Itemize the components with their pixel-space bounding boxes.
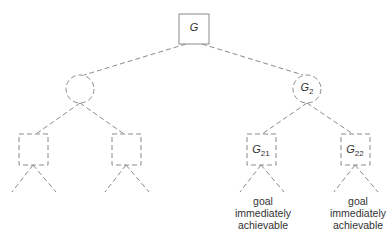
edge-left-box1 bbox=[36, 103, 80, 134]
or-node-left bbox=[66, 75, 94, 103]
edge-g2-g22 bbox=[307, 103, 353, 134]
edge-root-left bbox=[84, 44, 186, 75]
g2-label: G2 bbox=[287, 81, 327, 96]
note-g21: goal immediately achievable bbox=[223, 195, 303, 231]
root-label: G bbox=[174, 21, 214, 33]
edge-leaf bbox=[355, 165, 378, 192]
edge-leaf bbox=[12, 165, 33, 192]
edge-leaf bbox=[33, 165, 56, 192]
edge-g2-g21 bbox=[262, 103, 307, 134]
edge-leaf bbox=[105, 165, 126, 192]
and-node-left-1 bbox=[19, 134, 48, 165]
edge-root-g2 bbox=[202, 44, 303, 75]
and-node-left-2 bbox=[112, 134, 141, 165]
edge-leaf bbox=[126, 165, 149, 192]
g21-label: G21 bbox=[241, 143, 281, 158]
edge-leaf bbox=[334, 165, 355, 192]
edge-left-box2 bbox=[80, 103, 124, 134]
edge-leaf bbox=[261, 165, 284, 192]
note-g22: goal immediately achievable bbox=[318, 195, 391, 231]
g22-label: G22 bbox=[335, 143, 375, 158]
edge-leaf bbox=[240, 165, 261, 192]
